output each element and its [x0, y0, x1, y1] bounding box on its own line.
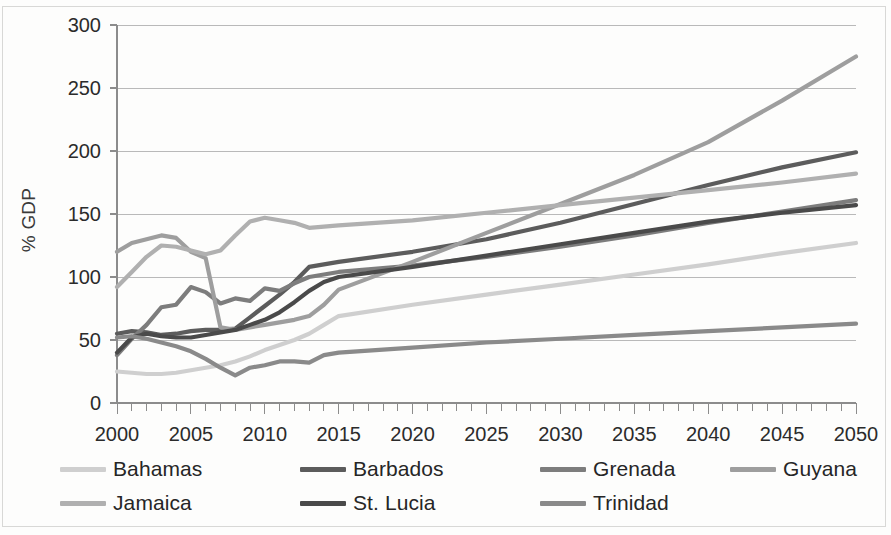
y-tick-labels-group: 050100150200250300	[68, 14, 101, 414]
legend-swatch-trinidad	[540, 501, 586, 506]
x-tick-label: 2005	[169, 423, 214, 445]
legend-item-barbados[interactable]: Barbados	[300, 452, 540, 486]
legend-item-jamaica[interactable]: Jamaica	[60, 486, 300, 520]
legend-item-grenada[interactable]: Grenada	[540, 452, 730, 486]
x-minor-ticks-group	[117, 403, 856, 414]
legend-label-jamaica: Jamaica	[113, 491, 192, 515]
legend-item-guyana[interactable]: Guyana	[730, 452, 880, 486]
x-tick-label: 2040	[686, 423, 731, 445]
legend-item-trinidad[interactable]: Trinidad	[540, 486, 730, 520]
legend-item-bahamas[interactable]: Bahamas	[60, 452, 300, 486]
chart-container: % GDP 050100150200250300 200020052010201…	[0, 0, 891, 535]
x-tick-label: 2020	[390, 423, 435, 445]
x-tick-label: 2045	[760, 423, 805, 445]
plot-area: 050100150200250300 200020052010201520202…	[0, 0, 891, 450]
y-tick-label: 150	[68, 203, 101, 225]
legend-item-st-lucia[interactable]: St. Lucia	[300, 486, 540, 520]
x-tick-label: 2050	[834, 423, 879, 445]
y-tick-label: 100	[68, 266, 101, 288]
x-tick-label: 2030	[538, 423, 583, 445]
legend-label-guyana: Guyana	[783, 457, 857, 481]
legend-label-grenada: Grenada	[593, 457, 675, 481]
legend-swatch-st-lucia	[300, 501, 346, 506]
legend-label-st-lucia: St. Lucia	[353, 491, 436, 515]
legend-swatch-jamaica	[60, 501, 106, 506]
x-tick-label: 2000	[95, 423, 140, 445]
x-tick-label: 2010	[243, 423, 288, 445]
x-tick-label: 2025	[464, 423, 509, 445]
y-tick-label: 50	[79, 329, 101, 351]
chart-legend: BahamasBarbadosGrenadaGuyanaJamaicaSt. L…	[60, 452, 880, 528]
y-tick-label: 0	[90, 392, 101, 414]
legend-label-trinidad: Trinidad	[593, 491, 669, 515]
legend-swatch-bahamas	[60, 467, 106, 472]
series-lines-group	[117, 57, 856, 376]
legend-row: BahamasBarbadosGrenadaGuyana	[60, 452, 880, 486]
legend-swatch-barbados	[300, 467, 346, 472]
x-tick-label: 2035	[612, 423, 657, 445]
legend-swatch-grenada	[540, 467, 586, 472]
series-line-jamaica	[117, 174, 856, 287]
legend-label-bahamas: Bahamas	[113, 457, 202, 481]
x-tick-labels-group: 2000200520102015202020252030203520402045…	[95, 423, 879, 445]
plot-svg: 050100150200250300 200020052010201520202…	[0, 0, 891, 450]
legend-label-barbados: Barbados	[353, 457, 444, 481]
legend-row: JamaicaSt. LuciaTrinidad	[60, 486, 880, 520]
series-line-bahamas	[117, 243, 856, 374]
y-tick-label: 250	[68, 77, 101, 99]
x-tick-label: 2015	[316, 423, 361, 445]
y-tick-label: 200	[68, 140, 101, 162]
y-tick-label: 300	[68, 14, 101, 36]
series-line-guyana	[117, 57, 856, 330]
legend-swatch-guyana	[730, 467, 776, 472]
